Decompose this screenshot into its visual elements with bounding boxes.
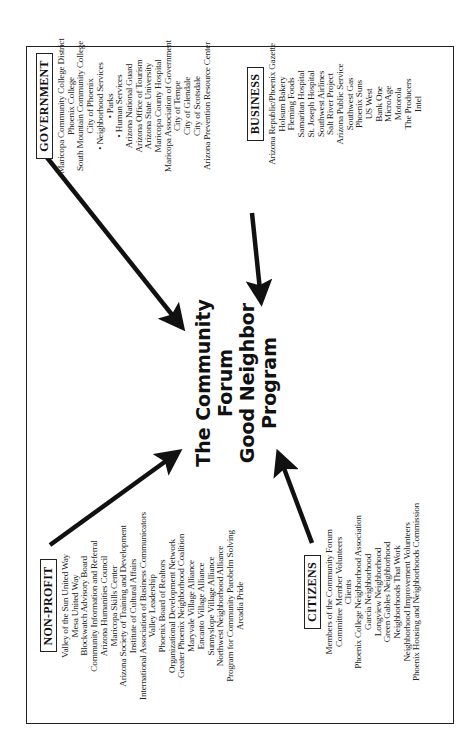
title-line: The Community [192,283,214,483]
business-list: Arizona Republic/Phoenix Gazette Holsum … [268,4,423,204]
program-title: The Community Forum Good Neighbor Progra… [192,283,280,483]
diagram-canvas: The Community Forum Good Neighbor Progra… [0,0,475,750]
business-group: BUSINESS Arizona Republic/Phoenix Gazett… [245,4,423,204]
nonprofit-list: Valley of the Sun United Way Mesa United… [61,481,245,731]
list-item: Phoenix Housing and Neighborhoods Commis… [412,477,422,707]
list-item: Arizona Prevention Resource Center [203,6,213,206]
citizens-header: CITIZENS [304,555,321,629]
government-group: GOVERNMENT Maricopa Community College Di… [34,6,212,206]
nonprofit-header: NON-PROFIT [40,560,57,653]
business-header: BUSINESS [247,67,264,141]
list-item: Intel [414,4,424,204]
government-header: GOVERNMENT [36,53,53,159]
title-line: Forum [214,283,236,483]
title-line: Program [258,283,280,483]
citizens-list: Members of the Community Forum Committee… [325,477,422,707]
list-item: Arcadia Pride [236,481,246,731]
nonprofit-group: NON-PROFIT Valley of the Sun United Way … [38,481,245,731]
title-line: Good Neighbor [236,283,258,483]
citizens-group: CITIZENS Members of the Community Forum … [302,477,422,707]
government-list: Maricopa Community College District Phoe… [57,6,212,206]
